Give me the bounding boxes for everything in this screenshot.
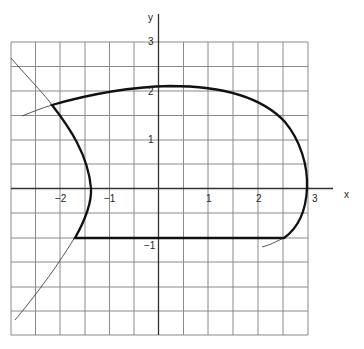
left-arc-extension-lower <box>15 237 75 320</box>
top-arc-extension <box>22 105 52 116</box>
diagram-canvas <box>0 0 364 349</box>
left-arc-extension <box>11 58 52 105</box>
region-boundary <box>52 86 307 238</box>
